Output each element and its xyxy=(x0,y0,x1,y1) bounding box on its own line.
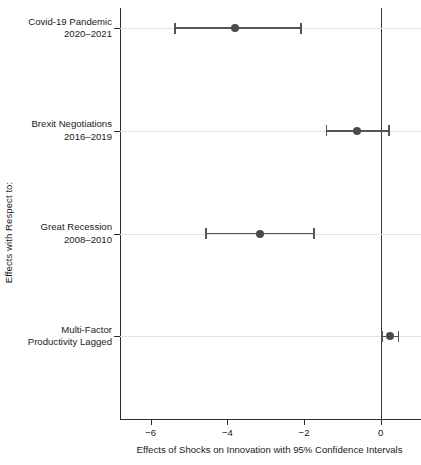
category-gridline xyxy=(120,336,421,337)
point-estimate-marker xyxy=(231,24,239,32)
zero-reference-line xyxy=(381,8,382,420)
category-label-line2: Productivity Lagged xyxy=(0,336,112,348)
confidence-interval-cap xyxy=(388,125,389,136)
y-axis-tick xyxy=(114,28,120,29)
category-label-line2: 2016–2019 xyxy=(0,131,112,143)
confidence-interval-cap xyxy=(205,228,206,239)
category-label-line1: Multi-Factor xyxy=(0,324,112,336)
confidence-interval-cap xyxy=(313,228,314,239)
y-axis-category-label: Brexit Negotiations2016–2019 xyxy=(0,118,112,143)
x-axis-tick xyxy=(151,420,152,425)
chart-figure: Effects with Respect to: −6−4−20Covid-19… xyxy=(0,0,421,465)
y-axis-tick xyxy=(114,234,120,235)
x-axis-tick-label: −4 xyxy=(207,427,247,438)
y-axis-category-label: Covid-19 Pandemic2020–2021 xyxy=(0,16,112,41)
y-axis-category-label: Multi-FactorProductivity Lagged xyxy=(0,324,112,349)
point-estimate-marker xyxy=(353,127,361,135)
x-axis-tick-label: −2 xyxy=(284,427,324,438)
x-axis-title: Effects of Shocks on Innovation with 95%… xyxy=(0,444,421,455)
x-axis-tick xyxy=(304,420,305,425)
confidence-interval-cap xyxy=(174,23,175,34)
x-axis-title-text: Effects of Shocks on Innovation with 95%… xyxy=(19,444,403,455)
y-axis-spine xyxy=(120,8,121,420)
confidence-interval-cap xyxy=(300,23,301,34)
y-axis-tick xyxy=(114,131,120,132)
x-axis-tick xyxy=(227,420,228,425)
category-label-line1: Brexit Negotiations xyxy=(0,118,112,130)
category-label-line2: 2020–2021 xyxy=(0,28,112,40)
y-axis-tick xyxy=(114,336,120,337)
category-label-line2: 2008–2010 xyxy=(0,234,112,246)
x-axis-tick xyxy=(381,420,382,425)
confidence-interval-cap xyxy=(398,331,399,342)
point-estimate-marker xyxy=(256,230,264,238)
point-estimate-marker xyxy=(386,332,394,340)
x-axis-tick-label: −6 xyxy=(131,427,171,438)
confidence-interval-cap xyxy=(381,331,382,342)
category-label-line1: Great Recession xyxy=(0,221,112,233)
confidence-interval-cap xyxy=(326,125,327,136)
x-axis-spine xyxy=(120,419,421,420)
y-axis-category-label: Great Recession2008–2010 xyxy=(0,221,112,246)
x-axis-tick-label: 0 xyxy=(361,427,401,438)
category-label-line1: Covid-19 Pandemic xyxy=(0,16,112,28)
